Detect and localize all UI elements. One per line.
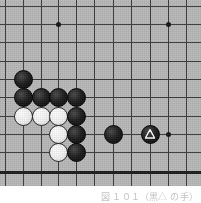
- go-board[interactable]: [0, 0, 201, 186]
- grid-line-vertical-5: [94, 0, 95, 186]
- diagram-caption: 図 １０１（黒△ の手）: [101, 192, 198, 203]
- grid-line-horizontal-8: [0, 152, 201, 153]
- grid-line-vertical-7: [131, 0, 132, 186]
- stone-white-row-b1[interactable]: [14, 107, 33, 126]
- stone-black-lone-upper[interactable]: [14, 70, 33, 89]
- grid-line-vertical-0: [5, 0, 6, 186]
- grid-line-horizontal-3: [0, 61, 201, 62]
- stone-black-row-a4[interactable]: [67, 88, 86, 107]
- stone-black-row-a2[interactable]: [32, 88, 51, 107]
- triangle-mark-icon: [145, 129, 156, 140]
- stone-white-bottom-e1[interactable]: [49, 143, 68, 162]
- stone-black-row-a1[interactable]: [14, 88, 33, 107]
- grid-line-vertical-10: [186, 0, 187, 186]
- grid-line-vertical-8: [150, 0, 151, 186]
- star-point-upper-right: [166, 22, 171, 27]
- stone-white-c2[interactable]: [49, 125, 68, 144]
- stone-white-row-b3[interactable]: [49, 107, 68, 126]
- stone-black-col-c1[interactable]: [67, 107, 86, 126]
- stone-black-bottom-e2[interactable]: [67, 143, 86, 162]
- caption-strip: 図 １０１（黒△ の手）: [0, 186, 201, 203]
- grid-line-vertical-6: [113, 0, 114, 186]
- stone-black-marked-triangle[interactable]: [141, 125, 160, 144]
- stone-black-row-a3[interactable]: [49, 88, 68, 107]
- star-point-right: [166, 132, 171, 137]
- go-diagram-page: 図 １０１（黒△ の手）: [0, 0, 201, 203]
- stone-white-row-b2[interactable]: [32, 107, 51, 126]
- grid-line-horizontal-0: [0, 6, 201, 7]
- star-point-upper-left: [56, 22, 61, 27]
- grid-line-vertical-9: [168, 0, 169, 186]
- stone-black-right-d1[interactable]: [104, 125, 123, 144]
- stone-black-col-c3[interactable]: [67, 125, 86, 144]
- grid-line-horizontal-2: [0, 42, 201, 43]
- board-bottom-edge-line: [0, 171, 201, 174]
